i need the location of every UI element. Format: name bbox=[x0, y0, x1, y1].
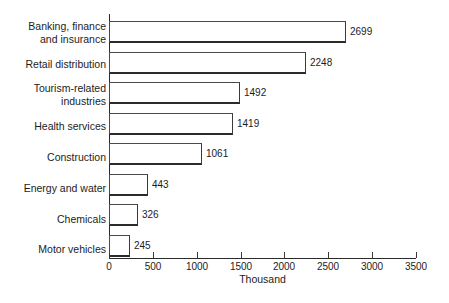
x-axis-tick bbox=[284, 252, 285, 258]
x-axis-tick-label: 3500 bbox=[405, 261, 427, 272]
bar-value-label: 245 bbox=[134, 240, 151, 251]
bar-value-label: 1061 bbox=[206, 148, 228, 159]
x-axis-tick-label: 1000 bbox=[186, 261, 208, 272]
bar bbox=[109, 113, 233, 135]
category-label: Banking, finance and insurance bbox=[2, 20, 106, 45]
x-axis-line bbox=[109, 258, 416, 259]
bar-value-label: 326 bbox=[142, 209, 159, 220]
bar bbox=[109, 21, 346, 43]
plot-area: 2699 2248 1492 1419 1061 443 326 245 0 5… bbox=[109, 14, 449, 260]
category-label: Retail distribution bbox=[2, 58, 106, 71]
bar bbox=[109, 82, 240, 104]
bar bbox=[109, 52, 306, 74]
x-axis-tick-label: 1500 bbox=[230, 261, 252, 272]
category-label: Energy and water bbox=[2, 182, 106, 195]
bar-value-label: 1419 bbox=[237, 118, 259, 129]
bar bbox=[109, 204, 138, 226]
x-axis-tick bbox=[372, 252, 373, 258]
bar bbox=[109, 235, 130, 257]
x-axis-tick-label: 2000 bbox=[273, 261, 295, 272]
x-axis-tick-label: 2500 bbox=[317, 261, 339, 272]
category-label: Tourism-related industries bbox=[2, 82, 106, 107]
category-axis-labels: Banking, finance and insurance Retail di… bbox=[0, 0, 106, 258]
x-axis-tick bbox=[197, 252, 198, 258]
category-label: Motor vehicles bbox=[2, 243, 106, 256]
x-axis-tick bbox=[328, 252, 329, 258]
x-axis-tick bbox=[416, 252, 417, 258]
x-axis-tick-label: 0 bbox=[106, 261, 112, 272]
bar-value-label: 2248 bbox=[310, 57, 332, 68]
x-axis-title: Thousand bbox=[109, 273, 416, 285]
x-axis-tick bbox=[153, 252, 154, 258]
category-label: Construction bbox=[2, 151, 106, 164]
category-label: Chemicals bbox=[2, 213, 106, 226]
x-axis-tick-label: 3000 bbox=[361, 261, 383, 272]
bar-value-label: 443 bbox=[152, 179, 169, 190]
bar bbox=[109, 143, 202, 165]
bar-chart: Banking, finance and insurance Retail di… bbox=[0, 0, 449, 303]
x-axis-tick bbox=[241, 252, 242, 258]
x-axis-tick bbox=[109, 252, 110, 258]
bar-value-label: 2699 bbox=[350, 26, 372, 37]
category-label: Health services bbox=[2, 120, 106, 133]
bar-value-label: 1492 bbox=[244, 87, 266, 98]
x-axis-tick-label: 500 bbox=[145, 261, 162, 272]
bar bbox=[109, 174, 148, 196]
